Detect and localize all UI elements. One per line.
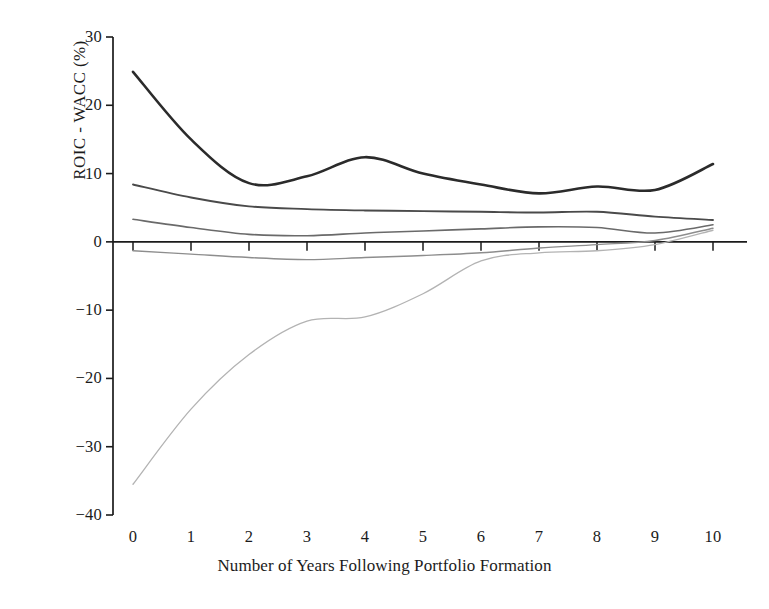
x-tick-label: 6 <box>477 527 485 547</box>
x-tick-label: 4 <box>361 527 369 547</box>
x-tick-label: 7 <box>535 527 543 547</box>
data-series-layer <box>133 72 713 484</box>
x-tick-label: 9 <box>651 527 659 547</box>
x-tick-label: 5 <box>419 527 427 547</box>
x-tick-label: 1 <box>187 527 195 547</box>
series-line-1 <box>133 72 713 194</box>
x-tick-label: 0 <box>129 527 137 547</box>
series-line-5 <box>133 230 713 484</box>
x-tick-label: 8 <box>593 527 601 547</box>
y-tick-label: −10 <box>40 300 102 320</box>
x-axis-title: Number of Years Following Portfolio Form… <box>0 556 769 576</box>
x-tick-label: 3 <box>303 527 311 547</box>
x-tick-label: 10 <box>705 527 722 547</box>
plot-area <box>0 0 769 609</box>
y-tick-label: −30 <box>40 437 102 457</box>
y-tick-label: −20 <box>40 368 102 388</box>
series-line-3 <box>133 219 713 235</box>
y-tick-label: −40 <box>40 505 102 525</box>
axis-lines <box>113 37 747 515</box>
roic-wacc-line-chart: −40−30−20−100102030 012345678910 Number … <box>0 0 769 609</box>
x-tick-label: 2 <box>245 527 253 547</box>
tick-marks <box>106 37 713 515</box>
y-axis-title: ROIC - WACC (%) <box>70 0 90 260</box>
